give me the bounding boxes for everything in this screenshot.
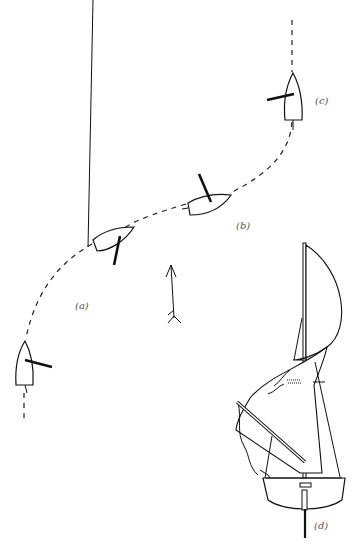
label-a: (a) <box>75 300 89 311</box>
label-b: (b) <box>236 220 250 231</box>
boat-b <box>182 174 231 215</box>
boat-a <box>88 0 134 265</box>
label-d: (d) <box>314 520 328 531</box>
boat-c <box>267 73 302 130</box>
wind-arrow-icon <box>166 265 181 323</box>
course-path <box>24 20 292 420</box>
sailing-diagram <box>0 0 360 546</box>
boat-start <box>16 341 52 393</box>
sailboat-d <box>236 243 345 538</box>
label-c: (c) <box>315 95 328 106</box>
